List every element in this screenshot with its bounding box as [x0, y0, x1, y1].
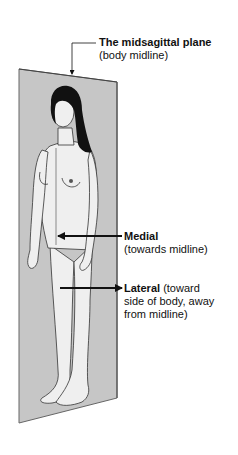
anatomical-diagram	[0, 0, 238, 455]
plane-subtitle: (body midline)	[99, 49, 211, 62]
plane-title: The midsagittal plane	[99, 36, 211, 48]
lateral-label: Lateral (toward side of body, away from …	[124, 282, 214, 321]
medial-description: (towards midline)	[124, 243, 208, 256]
plane-leader-line	[72, 43, 96, 74]
plane-label: The midsagittal plane (body midline)	[99, 36, 211, 62]
medial-label: Medial (towards midline)	[124, 230, 208, 256]
lateral-description-line2: side of body, away	[124, 295, 214, 308]
lateral-description-line1: (toward	[160, 282, 200, 294]
lateral-term: Lateral	[124, 282, 160, 294]
medial-term: Medial	[124, 230, 158, 242]
lateral-description-line3: from midline)	[124, 308, 214, 321]
